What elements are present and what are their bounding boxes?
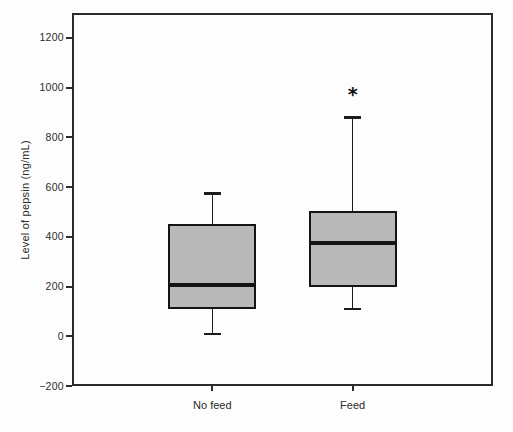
y-tick	[66, 87, 72, 89]
significance-asterisk: *	[338, 84, 368, 104]
whisker-cap-upper	[344, 116, 361, 119]
y-tick	[66, 37, 72, 39]
whisker-cap-upper	[204, 192, 221, 195]
whisker-lower	[352, 287, 354, 309]
y-tick-label: 0	[26, 330, 64, 343]
x-category-label: Feed	[293, 398, 413, 412]
boxplot-figure: Level of pepsin (ng/mL) * −2000200400600…	[0, 0, 513, 432]
y-tick-label: −200	[26, 380, 64, 393]
x-tick	[352, 386, 354, 391]
y-tick	[66, 385, 72, 387]
whisker-upper	[352, 117, 354, 210]
y-tick	[66, 186, 72, 188]
y-tick	[66, 136, 72, 138]
whisker-cap-lower	[344, 308, 361, 311]
median-line	[309, 241, 397, 245]
y-tick-label: 400	[26, 230, 64, 243]
plot-frame	[72, 13, 493, 386]
y-tick-label: 200	[26, 280, 64, 293]
y-tick	[66, 335, 72, 337]
y-tick	[66, 286, 72, 288]
y-tick-label: 800	[26, 131, 64, 144]
median-line	[168, 283, 256, 287]
box	[309, 211, 397, 287]
whisker-upper	[212, 193, 214, 224]
whisker-cap-lower	[204, 333, 221, 336]
y-tick-label: 600	[26, 181, 64, 194]
x-category-label: No feed	[152, 398, 272, 412]
y-tick-label: 1000	[26, 81, 64, 94]
y-tick-label: 1200	[26, 31, 64, 44]
whisker-lower	[212, 309, 214, 334]
y-tick	[66, 236, 72, 238]
x-tick	[211, 386, 213, 391]
box	[168, 224, 256, 309]
